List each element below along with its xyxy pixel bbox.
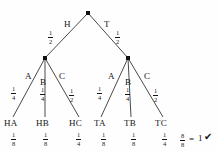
- node-H: [43, 56, 47, 60]
- denominator: 4: [97, 95, 102, 102]
- numerator: 1: [40, 87, 45, 94]
- leaf-label-TA: TA: [94, 119, 106, 128]
- denominator: 8: [43, 141, 48, 148]
- denominator: 2: [153, 97, 158, 104]
- numerator: 1: [43, 132, 48, 139]
- branch-label-right-C: C: [144, 72, 150, 81]
- branch-label-T: T: [104, 20, 110, 29]
- numerator: 1: [11, 132, 16, 139]
- branch-label-right-A: A: [108, 72, 115, 81]
- branch-prob-left-C: 1 2: [69, 88, 74, 103]
- numerator: 1: [69, 88, 74, 95]
- branch-prob-T-numerator: 1: [115, 30, 120, 37]
- leaf-prob-TC: 1 4: [162, 132, 167, 147]
- leaf-label-HC: HC: [69, 119, 82, 128]
- total-fraction: 8 8: [180, 133, 185, 148]
- denominator: 4: [76, 141, 81, 148]
- branch-prob-T-denominator: 2: [115, 39, 120, 46]
- leaf-prob-TA: 1 8: [101, 132, 106, 147]
- denominator: 8: [101, 141, 106, 148]
- numerator: 1: [125, 87, 130, 94]
- leaf-label-TB: TB: [124, 119, 136, 128]
- denominator: 4: [11, 95, 16, 102]
- leaf-prob-HC: 1 4: [76, 132, 81, 147]
- node-root: [86, 11, 90, 15]
- numerator: 1: [76, 132, 81, 139]
- numerator: 1: [11, 86, 16, 93]
- branch-prob-T: 1 2: [115, 30, 120, 45]
- leaf-prob-HB: 1 8: [43, 132, 48, 147]
- branch-prob-H-denominator: 2: [48, 39, 53, 46]
- checkmark-icon: ✔: [204, 131, 212, 142]
- numerator: 1: [153, 88, 158, 95]
- branch-label-H: H: [64, 20, 71, 29]
- numerator: 1: [131, 132, 136, 139]
- leaf-prob-HA: 1 8: [11, 132, 16, 147]
- equals-sign: =: [189, 135, 194, 144]
- branch-prob-right-B: 1 4: [125, 87, 130, 102]
- denominator: 4: [125, 96, 130, 103]
- branch-prob-right-C: 1 2: [153, 88, 158, 103]
- denominator: 8: [11, 141, 16, 148]
- edge-T-to-TA: [101, 58, 128, 117]
- denominator: 4: [40, 96, 45, 103]
- leaf-label-TC: TC: [155, 119, 167, 128]
- node-T: [126, 56, 130, 60]
- total-denominator: 8: [180, 142, 185, 149]
- branch-prob-left-A: 1 4: [11, 86, 16, 101]
- branch-prob-right-A: 1 4: [97, 86, 102, 101]
- leaf-label-HB: HB: [36, 119, 49, 128]
- branch-label-left-A: A: [25, 72, 32, 81]
- total-value: 1: [198, 134, 203, 143]
- branch-prob-left-B: 1 4: [40, 87, 45, 102]
- denominator: 4: [162, 141, 167, 148]
- branch-prob-H: 1 2: [48, 30, 53, 45]
- denominator: 8: [131, 141, 136, 148]
- leaf-label-HA: HA: [4, 119, 17, 128]
- denominator: 2: [69, 97, 74, 104]
- total-numerator: 8: [180, 133, 185, 140]
- branch-prob-H-numerator: 1: [48, 30, 53, 37]
- branch-label-left-C: C: [59, 72, 65, 81]
- leaf-prob-TB: 1 8: [131, 132, 136, 147]
- numerator: 1: [162, 132, 167, 139]
- probability-tree-diagram: H T 1 2 1 2 A B C 1 4 1 4 1 2 A B C 1 4 …: [0, 0, 218, 151]
- numerator: 1: [101, 132, 106, 139]
- numerator: 1: [97, 86, 102, 93]
